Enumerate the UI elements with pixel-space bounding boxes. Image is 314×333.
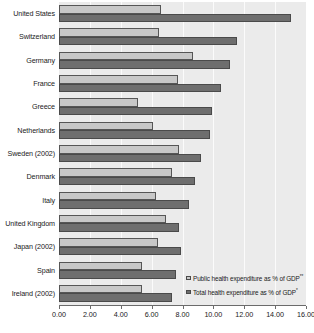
bar-total [59,154,201,163]
bar-total [59,177,195,186]
category-label: Japan (2002) [0,235,58,258]
tick-mark [183,306,184,309]
bar-group [59,165,306,188]
bar-total [59,270,176,279]
tick-mark [275,306,276,309]
legend-label-text: Total health expenditure as % of GDP [193,289,296,296]
bar-chart: United StatesSwitzerlandGermanyFranceGre… [0,0,314,333]
bar-group [59,49,306,72]
x-tick-label: 12.00 [235,310,253,319]
chart-legend: Public health expenditure as % of GDP**T… [186,274,312,302]
bar-group [59,235,306,258]
bars-container [59,2,306,305]
legend-label-superscript: * [296,288,298,293]
bar-group [59,212,306,235]
bar-group [59,119,306,142]
bar-public [59,238,158,247]
bar-public [59,52,193,61]
x-tick-label: 8.00 [176,310,190,319]
legend-swatch-total [186,290,191,295]
bar-public [59,98,138,107]
tick-mark [152,306,153,309]
bar-public [59,5,161,14]
category-label: Ireland (2002) [0,282,58,305]
bar-group [59,142,306,165]
tick-mark [306,306,307,309]
tick-mark [121,306,122,309]
bar-public [59,75,178,84]
bar-group [59,2,306,25]
bar-group [59,25,306,48]
legend-label-superscript: ** [300,274,303,279]
plot-area [59,2,306,305]
bar-total [59,130,210,139]
category-label: Spain [0,258,58,281]
x-tick-label: 4.00 [114,310,128,319]
bar-total [59,223,179,232]
bar-public [59,215,166,224]
category-axis-labels: United StatesSwitzerlandGermanyFranceGre… [0,2,58,305]
legend-item: Public health expenditure as % of GDP** [186,274,312,282]
bar-public [59,145,179,154]
bar-public [59,122,153,131]
x-tick-label: 6.00 [145,310,159,319]
category-label: Greece [0,95,58,118]
category-label: Sweden (2002) [0,142,58,165]
bar-public [59,262,142,271]
category-label: United Kingdom [0,212,58,235]
category-label: Germany [0,49,58,72]
category-label: Denmark [0,165,58,188]
bar-group [59,189,306,212]
bar-total [59,200,189,209]
category-label: Netherlands [0,119,58,142]
tick-mark [90,306,91,309]
x-tick-label: 10.00 [204,310,222,319]
category-label: Italy [0,189,58,212]
legend-item: Total health expenditure as % of GDP* [186,288,312,296]
x-tick-label: 16.00 [297,310,314,319]
bar-total [59,60,230,69]
bar-total [59,84,221,93]
x-tick-label: 14.00 [266,310,284,319]
bar-group [59,72,306,95]
bar-public [59,28,159,37]
bar-total [59,293,172,302]
category-label: France [0,72,58,95]
bar-public [59,168,172,177]
bar-total [59,247,181,256]
tick-mark [59,306,60,309]
bar-public [59,192,156,201]
bar-public [59,285,142,294]
legend-label-text: Public health expenditure as % of GDP [193,275,300,282]
bar-group [59,95,306,118]
x-tick-label: 2.00 [83,310,97,319]
category-label: United States [0,2,58,25]
tick-mark [244,306,245,309]
bar-total [59,37,237,46]
tick-mark [213,306,214,309]
category-label: Switzerland [0,25,58,48]
x-axis-ticks: 0.002.004.006.008.0010.0012.0014.0016.00 [59,306,306,322]
legend-label: Public health expenditure as % of GDP** [193,274,303,282]
bar-total [59,107,212,116]
x-tick-label: 0.00 [52,310,66,319]
legend-swatch-public [186,276,191,281]
legend-label: Total health expenditure as % of GDP* [193,288,298,296]
bar-total [59,14,291,23]
